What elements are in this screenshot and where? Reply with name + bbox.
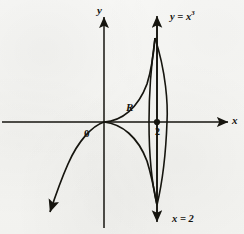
vertical-line-label: x = 2: [172, 214, 194, 225]
curve-equation-label: y = x3: [170, 10, 195, 22]
calculus-figure: y x 0 2 R y = x3 x = 2: [0, 0, 244, 234]
point-x-2: [154, 119, 160, 125]
x-tick-label-2: 2: [155, 127, 160, 137]
curve-cubic-lower-left: [50, 122, 104, 212]
figure-canvas: [0, 0, 244, 234]
origin-label: 0: [84, 128, 90, 139]
y-axis-label: y: [97, 5, 102, 16]
x-axis-label: x: [232, 115, 238, 126]
curve-equation-exponent: 3: [191, 9, 194, 16]
region-label: R: [126, 102, 133, 113]
curve-equation-text: y = x: [170, 11, 191, 22]
